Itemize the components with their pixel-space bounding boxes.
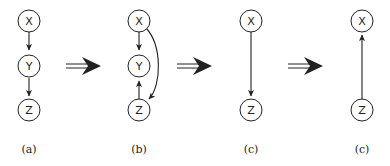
causal-graph-diagram: X Y Z (a) X Y Z (b) X Z (c): [0, 0, 390, 166]
svg-text:X: X: [358, 15, 366, 28]
transition-arrow-3: [288, 57, 323, 75]
panel-b: X Y Z (b): [128, 10, 158, 156]
svg-text:X: X: [247, 15, 255, 28]
transition-arrow-1: [66, 57, 101, 75]
caption-c1: (c): [244, 143, 259, 156]
panel-c2: X Z (c): [351, 10, 373, 156]
transition-arrow-2: [177, 57, 212, 75]
caption-c2: (c): [355, 143, 370, 156]
panel-c1: X Z (c): [240, 10, 262, 156]
svg-text:Z: Z: [25, 104, 33, 117]
node-x: X: [240, 10, 262, 32]
node-x: X: [18, 10, 40, 32]
node-z: Z: [128, 99, 150, 121]
caption-a: (a): [21, 143, 36, 156]
svg-text:X: X: [135, 15, 143, 28]
svg-text:Y: Y: [25, 60, 33, 73]
node-x: X: [351, 10, 373, 32]
svg-text:Z: Z: [247, 104, 255, 117]
panel-a: X Y Z (a): [18, 10, 40, 156]
node-z: Z: [351, 99, 373, 121]
node-y: Y: [128, 55, 150, 77]
caption-b: (b): [131, 143, 147, 156]
svg-text:X: X: [25, 15, 33, 28]
svg-text:Z: Z: [135, 104, 143, 117]
svg-text:Y: Y: [135, 60, 143, 73]
node-z: Z: [240, 99, 262, 121]
node-z: Z: [18, 99, 40, 121]
node-y: Y: [18, 55, 40, 77]
node-x: X: [128, 10, 150, 32]
svg-text:Z: Z: [358, 104, 366, 117]
